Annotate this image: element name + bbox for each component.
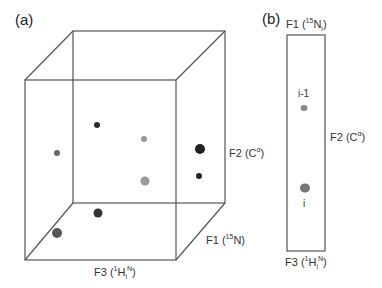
cube-f2-axis-label: F2 (Cα)	[229, 146, 264, 159]
strip-peaks	[300, 105, 310, 193]
panel-b-label: (b)	[262, 10, 280, 27]
cube-diagram	[0, 0, 382, 288]
panel-a-label: (a)	[15, 11, 33, 28]
strip-plot-frame	[287, 35, 325, 251]
strip-f2-axis-label: F2 (Cα)	[330, 130, 365, 143]
peak-label-i-minus-1: i-1	[298, 88, 309, 99]
cube-peaks	[52, 122, 205, 238]
cube-f3-axis-label: F3 (1HiN)	[94, 265, 136, 280]
cube-back-face	[73, 31, 225, 203]
cube-f1-axis-label: F1 (15N)	[206, 233, 245, 246]
strip-f1-axis-label: F1 (15Ni)	[286, 17, 327, 32]
strip-f3-axis-label: F3 (1HiN)	[285, 255, 327, 270]
peak-label-i: i	[303, 198, 305, 209]
